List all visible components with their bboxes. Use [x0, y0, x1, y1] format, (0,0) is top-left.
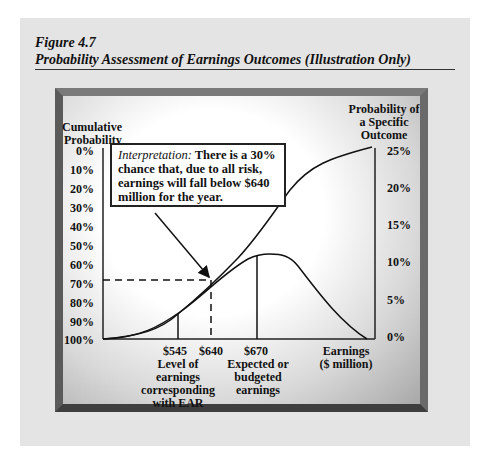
expected-caption: Expected or budgeted earnings [222, 358, 294, 397]
annotation-arrow [155, 213, 209, 277]
ear-caption: Level of earnings corresponding with EAR [135, 358, 221, 410]
x-axis-title-line2: ($ million) [312, 358, 380, 371]
expected-caption-line3: earnings [222, 384, 294, 397]
ear-caption-line4: with EAR [135, 397, 221, 410]
x-label-640: $640 [199, 345, 223, 358]
interpretation-box: Interpretation: There is a 30% chance th… [110, 143, 286, 207]
probability-distribution-curve [103, 254, 367, 339]
x-axis-title: Earnings ($ million) [312, 345, 380, 371]
interpretation-lead: Interpretation: [118, 148, 192, 162]
